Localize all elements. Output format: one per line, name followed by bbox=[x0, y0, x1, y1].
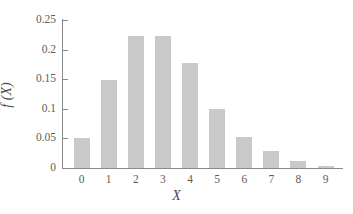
x-axis-tick-label: 5 bbox=[202, 173, 232, 185]
x-axis-tick-label: 8 bbox=[283, 173, 313, 185]
y-axis-tick-label-text: 0.25 bbox=[10, 14, 56, 26]
bar bbox=[155, 36, 171, 168]
y-axis-tick-label: 0.15 bbox=[6, 73, 56, 85]
y-axis-tick-label-text: 0.05 bbox=[10, 132, 56, 144]
x-axis-tick-label: 3 bbox=[148, 173, 178, 185]
x-axis-tick-label: 2 bbox=[121, 173, 151, 185]
x-axis-title: X bbox=[0, 188, 353, 204]
y-axis-tick-label-text: 0.2 bbox=[10, 44, 56, 56]
x-axis-tick-label: 4 bbox=[175, 173, 205, 185]
x-axis-tick-label: 9 bbox=[311, 173, 341, 185]
bar bbox=[318, 166, 334, 168]
x-axis-line bbox=[62, 168, 343, 169]
x-axis-tick-label: 1 bbox=[94, 173, 124, 185]
x-axis-tick-label: 6 bbox=[229, 173, 259, 185]
bar bbox=[182, 63, 198, 168]
plot-area bbox=[62, 20, 344, 168]
bar bbox=[74, 138, 90, 168]
bar bbox=[209, 109, 225, 168]
bar bbox=[290, 161, 306, 168]
bars-group bbox=[62, 20, 344, 168]
y-axis-tick-label: 0 bbox=[6, 162, 56, 174]
chart-figure: f (X) 00.050.10.150.20.25 0123456789 X bbox=[0, 0, 353, 214]
y-axis-tick-label-text: 0.1 bbox=[10, 103, 56, 115]
y-axis-tick-label: 0.2 bbox=[6, 44, 56, 56]
y-axis-tick-label: 0.1 bbox=[6, 103, 56, 115]
y-axis-tick-label: 0.25 bbox=[6, 14, 56, 26]
x-axis-tick-label: 0 bbox=[67, 173, 97, 185]
y-axis-tick-label-text: 0.15 bbox=[10, 73, 56, 85]
y-axis-tick-label-text: 0 bbox=[10, 162, 56, 174]
bar bbox=[263, 151, 279, 168]
y-axis-tick bbox=[63, 168, 68, 169]
bar bbox=[128, 36, 144, 168]
bar bbox=[236, 137, 252, 168]
y-axis-tick-label: 0.05 bbox=[6, 132, 56, 144]
bar bbox=[101, 80, 117, 168]
x-axis-tick-label: 7 bbox=[256, 173, 286, 185]
